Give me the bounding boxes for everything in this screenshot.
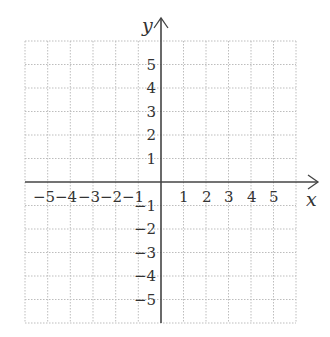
x-axis-label: x	[306, 188, 317, 210]
coordinate-plane: y x −5 −4 −3 −2 −1 1 2 3 4 5 5 4 3 2 1 −…	[0, 0, 330, 337]
y-tick-label: 2	[146, 126, 156, 144]
y-tick-label: 4	[146, 79, 156, 97]
y-axis-label: y	[141, 14, 153, 36]
y-tick-label: −1	[134, 197, 156, 215]
y-tick-label: 3	[146, 103, 156, 121]
x-tick-label: 2	[202, 188, 212, 206]
x-tick-label: −5	[33, 188, 55, 206]
y-tick-label: −5	[134, 291, 156, 309]
x-tick-label: −2	[100, 188, 122, 206]
x-tick-label: 1	[179, 188, 189, 206]
x-tick-label: 4	[247, 188, 257, 206]
y-axis	[154, 18, 168, 323]
y-tick-label: 5	[146, 56, 156, 74]
y-tick-label: −2	[134, 220, 156, 238]
x-tick-label: 5	[269, 188, 279, 206]
x-tick-label: −4	[55, 188, 77, 206]
y-tick-label: −4	[134, 267, 156, 285]
x-tick-label: −3	[78, 188, 100, 206]
y-tick-label: −3	[134, 244, 156, 262]
x-tick-label: 3	[224, 188, 234, 206]
x-axis	[25, 175, 318, 189]
y-tick-label: 1	[146, 150, 156, 168]
